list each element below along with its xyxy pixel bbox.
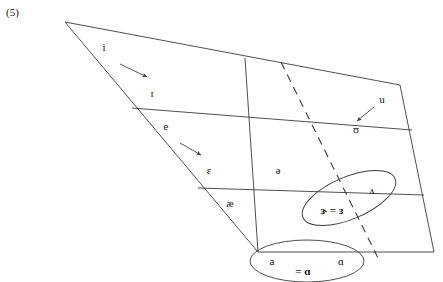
vowel-upsilon: ʊ — [353, 123, 359, 135]
vowel-script-a: ɑ — [338, 255, 344, 267]
vowel-small-cap-i: ɪ — [150, 87, 153, 99]
shift-arrow-e-to-epsilon — [180, 143, 201, 155]
vowel-ash: æ — [226, 197, 233, 209]
vowel-chart-page: (5) iɪeɛæəuʊʌaɑɝ = ɜ= ɑ — [0, 0, 443, 282]
vowel-a: a — [270, 255, 275, 267]
nurse-merger-ellipse — [295, 159, 403, 237]
high-mid-line — [132, 108, 412, 130]
vowel-wedge: ʌ — [369, 184, 375, 196]
mid-low-line — [198, 188, 424, 195]
vowel-e: e — [164, 120, 169, 132]
vowel-epsilon: ɛ — [207, 164, 212, 176]
vowel-i: i — [102, 41, 105, 53]
merger-low-back: = ɑ — [295, 265, 310, 277]
quadrilateral-outline — [65, 22, 434, 252]
vowel-u: u — [379, 93, 385, 105]
shift-arrow-i-to-small-cap-i — [120, 64, 147, 77]
vowel-quadrilateral-diagram — [0, 0, 443, 282]
merger-nurse: ɝ = ɜ — [321, 204, 344, 216]
shift-arrow-u-to-upsilon — [357, 107, 374, 121]
vowel-schwa: ə — [276, 164, 281, 176]
back-line — [281, 62, 380, 262]
central-line — [245, 58, 258, 252]
